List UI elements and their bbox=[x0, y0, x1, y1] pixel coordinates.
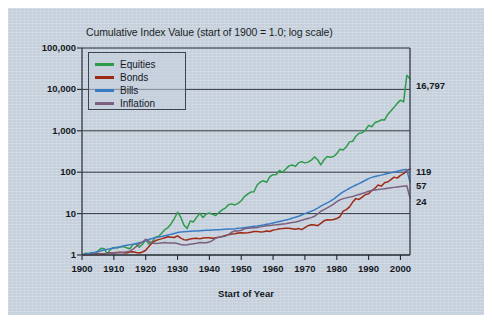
legend-label: Bonds bbox=[120, 73, 148, 83]
y-tick-label: 100,000 bbox=[16, 42, 76, 53]
x-axis-ticks bbox=[82, 255, 400, 260]
end-label-bonds: 119 bbox=[416, 166, 431, 177]
end-label-bills: 57 bbox=[416, 180, 427, 191]
y-tick-label: 1 bbox=[16, 249, 76, 260]
legend-label: Bills bbox=[120, 86, 138, 96]
legend-swatch-icon bbox=[95, 76, 114, 79]
chart-legend: EquitiesBondsBillsInflation bbox=[88, 52, 186, 110]
series-line-bills bbox=[82, 170, 410, 255]
chart-figure: Cumulative Index Value (start of 1900 = … bbox=[0, 0, 492, 323]
y-tick-label: 10 bbox=[16, 208, 76, 219]
legend-item-inflation: Inflation bbox=[95, 97, 155, 110]
y-tick-label: 100 bbox=[16, 166, 76, 177]
legend-label: Equities bbox=[120, 60, 156, 70]
legend-item-equities: Equities bbox=[95, 58, 156, 71]
legend-swatch-icon bbox=[95, 102, 114, 105]
legend-swatch-icon bbox=[95, 89, 114, 92]
y-tick-label: 10,000 bbox=[16, 83, 76, 94]
y-tick-label: 1,000 bbox=[16, 125, 76, 136]
legend-label: Inflation bbox=[120, 99, 155, 109]
end-label-equities: 16,797 bbox=[416, 80, 445, 91]
legend-item-bonds: Bonds bbox=[95, 71, 148, 84]
x-axis-caption: Start of Year bbox=[0, 288, 492, 299]
end-label-inflation: 24 bbox=[416, 196, 427, 207]
legend-swatch-icon bbox=[95, 63, 114, 66]
x-tick-label: 2000 bbox=[380, 263, 420, 274]
legend-item-bills: Bills bbox=[95, 84, 138, 97]
